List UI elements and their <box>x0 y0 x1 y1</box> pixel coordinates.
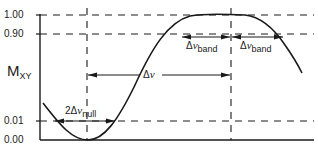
y-axis-label: MXY <box>7 62 32 81</box>
band-right-label: Δνband <box>240 40 272 55</box>
y-tick-0-01: 0.01 <box>4 116 23 126</box>
band-left-label: Δνband <box>186 40 218 55</box>
diagram-canvas <box>0 0 318 149</box>
y-tick-0-00: 0.00 <box>4 135 23 145</box>
y-tick-1-00: 1.00 <box>4 10 23 20</box>
null-width-label: 2Δνnull <box>65 105 96 120</box>
y-tick-0-90: 0.90 <box>4 29 23 39</box>
delta-nu-label: Δν <box>143 69 155 80</box>
